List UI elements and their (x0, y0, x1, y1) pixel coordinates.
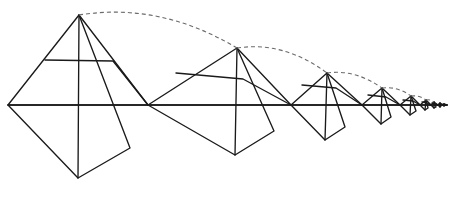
square-outline-2 (148, 48, 274, 155)
dashed-arc-1 (79, 12, 237, 48)
diagonal-apex-bottom-2 (235, 48, 237, 155)
inner-square-edge-2 (176, 73, 291, 105)
square-outline-1 (8, 15, 130, 178)
diagonal-apex-bottom-1 (78, 15, 79, 178)
square-unit-4 (362, 88, 400, 124)
square-outline-3 (291, 73, 345, 140)
square-outline-4 (362, 88, 391, 124)
square-unit-8 (438, 103, 443, 107)
square-unit-1 (8, 15, 148, 178)
square-unit-5 (400, 96, 420, 115)
square-unit-6 (420, 100, 431, 110)
diagonal-apex-bottom-4 (381, 88, 382, 124)
square-unit-2 (148, 48, 291, 155)
geometric-figure-svg (0, 0, 453, 204)
diagonal-apex-right-2 (237, 48, 291, 105)
inner-square-edge-1 (45, 60, 148, 105)
diagonal-apex-bottom-3 (325, 73, 327, 140)
dashed-arc-2 (237, 47, 327, 73)
square-unit-7 (431, 102, 438, 108)
square-unit-3 (291, 73, 362, 140)
squares-group (8, 15, 447, 178)
figure-canvas (0, 0, 453, 204)
